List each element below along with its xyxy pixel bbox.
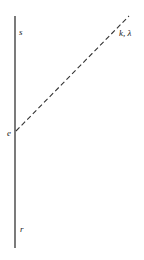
dashed-line-k-lambda xyxy=(16,16,129,131)
label-e: e xyxy=(7,129,11,138)
label-k-lambda: k, λ xyxy=(119,29,131,38)
label-r: r xyxy=(20,225,24,234)
label-s: s xyxy=(19,28,23,37)
diagram-canvas xyxy=(0,0,144,260)
